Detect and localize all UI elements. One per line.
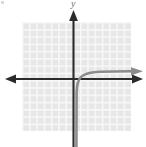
curve-arrow-right: [131, 67, 143, 75]
axis-label-y: y: [71, 0, 75, 9]
x-axis-arrow-left: [5, 75, 16, 84]
graph-canvas: [0, 0, 146, 147]
y-axis-arrow-up: [69, 10, 78, 21]
graph-figure: y: [0, 0, 146, 147]
x-axis-arrow-right: [132, 75, 143, 84]
